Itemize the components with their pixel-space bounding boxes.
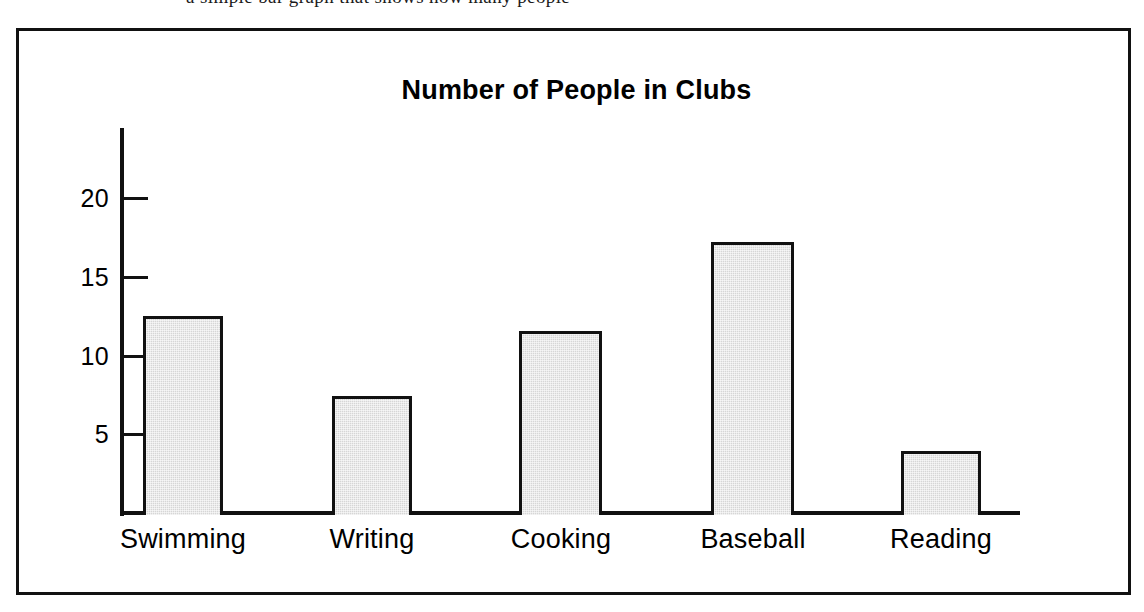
bar-swimming xyxy=(143,316,223,515)
plot-area: 20 15 10 5 Swimming Writing Cooking Base… xyxy=(19,31,1134,598)
y-tick-mark-15 xyxy=(124,276,148,279)
y-tick-label-10: 10 xyxy=(63,344,109,369)
bar-writing xyxy=(332,396,412,515)
y-tick-label-20: 20 xyxy=(63,186,109,211)
category-label-cooking: Cooking xyxy=(471,523,651,555)
bar-reading xyxy=(901,451,981,515)
y-axis-line xyxy=(120,128,124,516)
y-tick-label-5: 5 xyxy=(63,422,109,447)
page-text-sliver: a simple bar graph that shows how many p… xyxy=(0,0,1144,8)
category-label-reading: Reading xyxy=(851,523,1031,555)
category-label-baseball: Baseball xyxy=(663,523,843,555)
figure-frame: Number of People in Clubs 20 15 10 5 Swi… xyxy=(16,28,1131,595)
bar-baseball xyxy=(711,242,794,515)
y-tick-mark-20 xyxy=(124,197,148,200)
bar-cooking xyxy=(519,331,602,515)
category-label-writing: Writing xyxy=(282,523,462,555)
y-tick-label-15: 15 xyxy=(63,265,109,290)
category-label-swimming: Swimming xyxy=(93,523,273,555)
